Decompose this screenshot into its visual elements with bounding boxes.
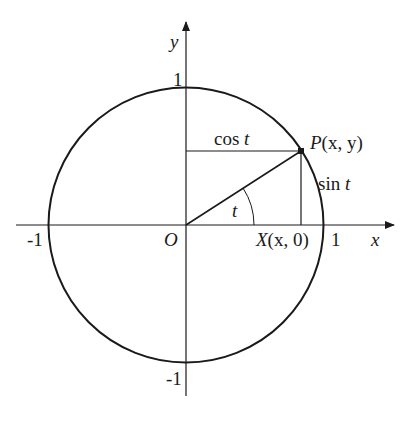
origin-label: O bbox=[164, 230, 178, 249]
y-tick-top-label: 1 bbox=[173, 70, 183, 89]
angle-arc bbox=[243, 188, 254, 225]
point-X-coords: (x, 0) bbox=[268, 229, 309, 250]
sin-var: t bbox=[345, 173, 350, 194]
x-axis-label: x bbox=[371, 230, 379, 249]
cos-text: cos bbox=[214, 128, 239, 149]
sin-text: sin bbox=[318, 173, 340, 194]
cos-var: t bbox=[244, 128, 249, 149]
y-axis-label: y bbox=[170, 32, 178, 51]
x-tick-left-label: -1 bbox=[27, 230, 43, 249]
cos-t-label: cos t bbox=[214, 129, 249, 148]
point-P-label: P(x, y) bbox=[310, 133, 363, 152]
sin-t-label: sin t bbox=[318, 174, 350, 193]
point-P-coords: (x, y) bbox=[322, 132, 363, 153]
x-tick-right-label: 1 bbox=[331, 230, 341, 249]
angle-t-label: t bbox=[232, 201, 237, 220]
point-X-letter: X bbox=[256, 229, 268, 250]
y-tick-bottom-label: -1 bbox=[166, 369, 182, 388]
point-P-letter: P bbox=[310, 132, 322, 153]
point-X-label: X(x, 0) bbox=[256, 230, 309, 249]
point-P-marker bbox=[298, 148, 304, 154]
diagram-canvas bbox=[0, 0, 420, 423]
